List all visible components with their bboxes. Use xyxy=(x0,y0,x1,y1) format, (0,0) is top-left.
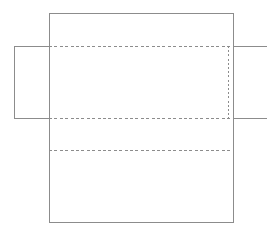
panel-fill-left-flap xyxy=(14,46,49,118)
panel-fills xyxy=(14,13,267,222)
panel-fill-main xyxy=(49,13,233,222)
panel-fill-right-flap xyxy=(233,46,267,118)
die-cut-canvas xyxy=(0,0,267,234)
box-template-diagram xyxy=(0,0,267,234)
